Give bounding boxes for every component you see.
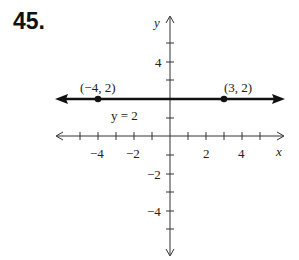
point-b-label: (3, 2) (224, 80, 252, 95)
y-tick-label: −2 (147, 167, 161, 182)
x-tick-label: 4 (238, 146, 245, 161)
point-3-2 (221, 96, 228, 103)
point-neg4-2 (95, 96, 102, 103)
x-tick-label: −4 (90, 146, 104, 161)
x-axis-label: x (275, 144, 282, 159)
y-tick-label: −4 (147, 204, 161, 219)
x-tick-label: −2 (126, 146, 140, 161)
point-a-label: (−4, 2) (80, 80, 116, 95)
y-axis-label: y (152, 15, 160, 30)
x-tick-label: 2 (203, 146, 210, 161)
y-tick-label: 4 (155, 55, 162, 70)
equation-label: y = 2 (111, 108, 138, 123)
coordinate-plane: (−4, 2) (3, 2) y = 2 y x −4 −2 2 4 4 −2 … (0, 0, 299, 260)
